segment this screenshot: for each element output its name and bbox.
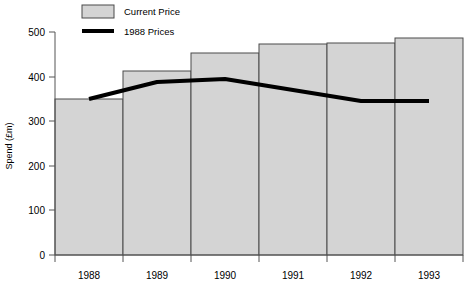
bar-1991[interactable] [259,44,327,255]
y-tick-label-400: 400 [28,72,45,83]
bar-1988[interactable] [55,99,123,255]
spend-bar-line-chart: 0 100 200 300 400 500 Spend (£m) 1988 19… [0,0,465,290]
x-tick-label-1993: 1993 [418,270,441,281]
y-tick-label-300: 300 [28,116,45,127]
x-tick-label-1989: 1989 [146,270,169,281]
bar-1993[interactable] [395,38,463,255]
legend-item-current-price[interactable]: Current Price [82,5,180,18]
bar-1989[interactable] [123,71,191,255]
x-tick-label-1988: 1988 [78,270,101,281]
bar-1992[interactable] [327,43,395,255]
chart-container: 0 100 200 300 400 500 Spend (£m) 1988 19… [0,0,465,290]
legend-label-current-price: Current Price [124,6,180,17]
y-tick-label-200: 200 [28,161,45,172]
x-tick-label-1990: 1990 [214,270,237,281]
y-tick-label-0: 0 [39,250,45,261]
x-tick-label-1991: 1991 [282,270,305,281]
x-tick-label-1992: 1992 [350,270,373,281]
legend-swatch-bar-icon [82,5,114,18]
y-tick-label-500: 500 [28,27,45,38]
legend-label-1988-prices: 1988 Prices [124,26,174,37]
y-tick-label-100: 100 [28,205,45,216]
y-axis-title: Spend (£m) [4,122,14,169]
